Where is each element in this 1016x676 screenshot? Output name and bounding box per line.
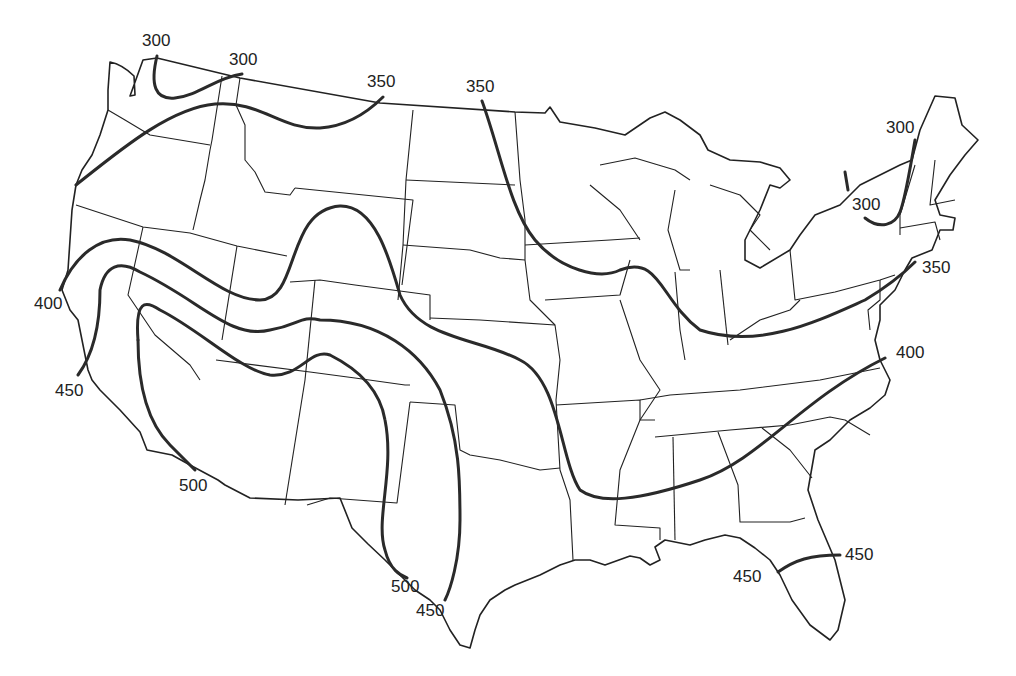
contour-label: 450 xyxy=(845,545,873,564)
isoline-350-central xyxy=(482,101,915,337)
country-outline xyxy=(62,58,978,648)
contour-label: 300 xyxy=(142,31,170,50)
contour-label: 400 xyxy=(34,294,62,313)
contour-label: 300 xyxy=(886,118,914,137)
isoline-450-florida xyxy=(778,555,840,572)
contour-label: 350 xyxy=(922,258,950,277)
us-isoline-map: 300 300 350 350 300 300 350 400 400 450 … xyxy=(0,0,1016,676)
isoline-500 xyxy=(137,304,407,578)
isoline-300-ny-tick xyxy=(845,172,848,190)
contour-label: 450 xyxy=(416,601,444,620)
isolines xyxy=(60,56,915,600)
contour-label: 300 xyxy=(229,50,257,69)
isoline-400 xyxy=(60,206,885,499)
contour-label: 400 xyxy=(896,343,924,362)
contour-label: 500 xyxy=(179,476,207,495)
isoline-450 xyxy=(78,266,460,600)
contour-label: 450 xyxy=(55,381,83,400)
contour-label: 300 xyxy=(852,195,880,214)
contour-label: 500 xyxy=(391,577,419,596)
isoline-350-northwest xyxy=(76,97,383,185)
contour-label: 450 xyxy=(733,567,761,586)
contour-label: 350 xyxy=(367,72,395,91)
contour-labels: 300 300 350 350 300 300 350 400 400 450 … xyxy=(34,31,950,620)
contour-label: 350 xyxy=(466,77,494,96)
